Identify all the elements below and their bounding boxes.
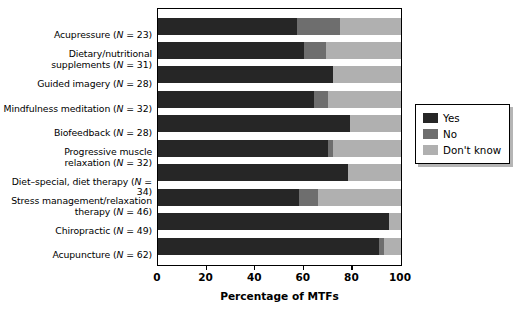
bar-segment-yes [158, 140, 328, 157]
bar-segment-dont-know [389, 213, 401, 230]
x-axis-tick-label: 80 [344, 271, 359, 283]
y-axis-label: Biofeedback (N = 28) [0, 128, 152, 139]
legend-label: Yes [443, 112, 460, 124]
chart-legend: YesNoDon't know [415, 104, 510, 164]
bar-segment-yes [158, 91, 314, 108]
y-axis-label: Guided imagery (N = 28) [0, 79, 152, 90]
y-axis-label: Stress management/relaxationtherapy (N =… [0, 196, 152, 217]
y-axis-label: Acupuncture (N = 62) [0, 250, 152, 261]
x-axis-tick [254, 265, 255, 270]
bar-segment-dont-know [328, 91, 401, 108]
bar-segment-no [297, 18, 341, 35]
y-axis-category-labels: Acupressure (N = 23)Dietary/nutritionals… [0, 14, 152, 256]
bar-segment-yes [158, 42, 304, 59]
bar-segment-dont-know [350, 115, 401, 132]
x-axis-tick [351, 265, 352, 270]
legend-label: Don't know [443, 144, 501, 156]
y-axis-label: Acupressure (N = 23) [0, 30, 152, 41]
bar-segment-dont-know [318, 189, 401, 206]
y-axis-label: Mindfulness meditation (N = 32) [0, 104, 152, 115]
plot-area [157, 8, 402, 266]
bar-segment-dont-know [333, 140, 401, 157]
bar-row [158, 66, 401, 83]
bar-row [158, 115, 401, 132]
bar-row [158, 238, 401, 255]
bar-segment-dont-know [340, 18, 401, 35]
legend-item: No [423, 127, 502, 141]
bar-segment-dont-know [384, 238, 401, 255]
bar-row [158, 213, 401, 230]
x-axis-tick-label: 40 [247, 271, 262, 283]
bar-row [158, 18, 401, 35]
x-axis-tick-label: 0 [153, 271, 160, 283]
bar-row [158, 42, 401, 59]
bar-segment-dont-know [333, 66, 401, 83]
bar-segment-dont-know [326, 42, 401, 59]
x-axis-title: Percentage of MTFs [157, 290, 402, 302]
bar-segment-yes [158, 18, 297, 35]
bar-row [158, 140, 401, 157]
bar-segment-yes [158, 66, 333, 83]
legend-swatch-icon [423, 113, 438, 123]
bar-row [158, 91, 401, 108]
bar-segment-no [314, 91, 329, 108]
bar-segment-yes [158, 164, 348, 181]
bar-segment-yes [158, 213, 389, 230]
bar-row [158, 189, 401, 206]
legend-swatch-icon [423, 129, 438, 139]
bar-segment-dont-know [348, 164, 401, 181]
x-axis-tick [206, 265, 207, 270]
bar-segment-no [299, 189, 318, 206]
legend-item: Don't know [423, 143, 502, 157]
y-axis-label: Dietary/nutritionalsupplements (N = 31) [0, 49, 152, 70]
x-axis-tick-label: 100 [389, 271, 411, 283]
bar-segment-yes [158, 238, 379, 255]
bar-segment-yes [158, 115, 350, 132]
legend-item: Yes [423, 111, 502, 125]
stacked-bar-chart: Acupressure (N = 23)Dietary/nutritionals… [0, 0, 516, 314]
y-axis-label: Chiropractic (N = 49) [0, 226, 152, 237]
bar-row [158, 164, 401, 181]
x-axis-tick-label: 20 [198, 271, 213, 283]
x-axis-tick [303, 265, 304, 270]
bar-segment-no [304, 42, 326, 59]
legend-swatch-icon [423, 145, 438, 155]
legend-label: No [443, 128, 457, 140]
x-axis-tick-label: 60 [295, 271, 310, 283]
y-axis-label: Progressive musclerelaxation (N = 32) [0, 147, 152, 168]
bar-segment-yes [158, 189, 299, 206]
